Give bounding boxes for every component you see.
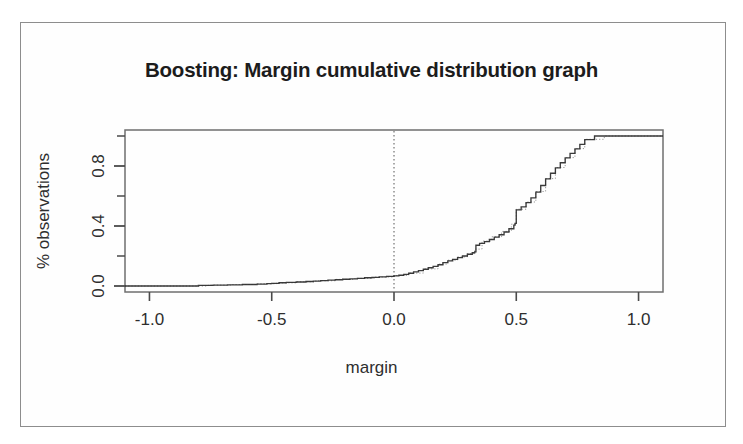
- y-axis-tick-label-text: 0.0: [89, 274, 109, 298]
- x-axis-title: margin: [0, 358, 743, 378]
- x-axis-tick-label: -1.0: [135, 310, 164, 330]
- y-axis-title-text: % observations: [34, 153, 54, 269]
- y-axis-tick-label-text: 0.8: [89, 154, 109, 178]
- x-axis-tick-label: -0.5: [257, 310, 286, 330]
- y-axis-tick-label-text: 0.4: [89, 214, 109, 238]
- x-axis-tick-label: 0.5: [504, 310, 528, 330]
- x-axis-tick-label: 1.0: [627, 310, 651, 330]
- x-axis-tick-label: 0.0: [382, 310, 406, 330]
